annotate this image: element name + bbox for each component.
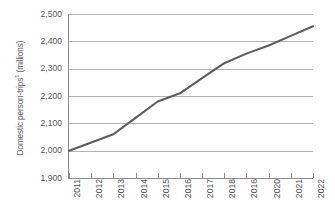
y-axis-tick-label: 2,100 (28, 119, 62, 128)
y-axis-tick-labels: 2,5002,4002,3002,2002,1002,0001,900 (28, 0, 62, 221)
x-axis-tick-label: 2012 (94, 179, 104, 219)
x-axis-tick-label: 2011 (72, 179, 82, 219)
x-axis-tick-label: 2017 (205, 179, 215, 219)
y-axis-title-units: (millions) (16, 41, 25, 73)
y-axis-tick-label: 2,400 (28, 37, 62, 46)
x-axis-tick-label: 2020 (272, 179, 282, 219)
y-axis-title: Domestic person-trips1 (millions) (14, 18, 28, 178)
y-axis-tick-label: 2,000 (28, 146, 62, 155)
y-axis-tick-label: 2,200 (28, 92, 62, 101)
x-axis-tick-label: 2018 (227, 179, 237, 219)
y-axis-title-text: Domestic person-trips (16, 78, 25, 156)
x-axis-tick-label: 2014 (139, 179, 149, 219)
y-axis-tick-label: 1,900 (28, 174, 62, 183)
y-axis-title-superscript: 1 (14, 75, 20, 78)
plot-area (68, 14, 313, 179)
data-series-line (69, 14, 313, 178)
y-axis-tick-label: 2,300 (28, 64, 62, 73)
y-axis-tick-label: 2,500 (28, 10, 62, 19)
x-axis-tick-labels: 2011201220132014201520162017201820162020… (68, 179, 320, 221)
x-axis-tick-label: 2021 (294, 179, 304, 219)
x-axis-tick-label: 2015 (161, 179, 171, 219)
x-axis-tick-label: 2022 (316, 179, 326, 219)
line-chart: Domestic person-trips1 (millions) 2,5002… (0, 0, 335, 221)
x-axis-tick-label: 2013 (116, 179, 126, 219)
x-axis-tick-label: 2016 (249, 179, 259, 219)
x-axis-tick-label: 2016 (183, 179, 193, 219)
